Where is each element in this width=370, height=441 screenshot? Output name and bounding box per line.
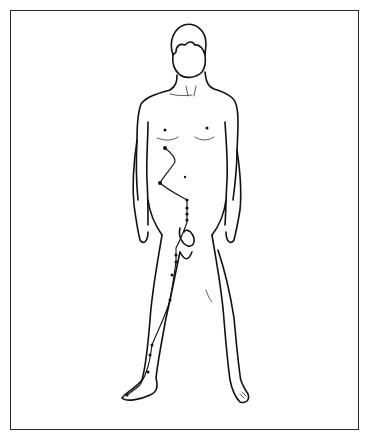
- body-illustration: [0, 0, 370, 441]
- head: [171, 24, 206, 77]
- chest-details: [157, 86, 214, 178]
- meridian-path: [126, 146, 189, 397]
- legs: [122, 235, 249, 403]
